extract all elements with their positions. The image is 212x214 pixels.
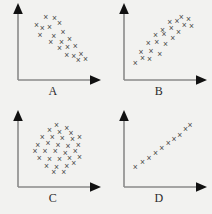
- data-point-marker: ×: [51, 167, 56, 177]
- data-point-marker: ×: [48, 37, 53, 47]
- panel-label-d: D: [106, 191, 212, 206]
- data-point-marker: ×: [166, 138, 171, 148]
- data-point-marker: ×: [160, 25, 165, 35]
- data-point-marker: ×: [163, 39, 168, 49]
- data-point-marker: ×: [138, 47, 143, 57]
- data-point-marker: ×: [61, 167, 66, 177]
- data-point-marker: ×: [50, 132, 55, 142]
- panel-label-a: A: [0, 84, 106, 99]
- y-axis-arrowhead-a: [13, 3, 23, 14]
- data-point-marker: ×: [170, 33, 175, 43]
- data-point-marker: ×: [172, 134, 177, 144]
- y-axis-arrowhead-d: [119, 110, 129, 121]
- data-point-marker: ×: [70, 134, 75, 144]
- data-points-a: ××××××××××××××××××××: [34, 12, 88, 66]
- data-points-c: ×××××××××××××××××××××××××××××××: [32, 120, 82, 178]
- scatter-panel-c: ××××××××××××××××××××××××××××××× C: [0, 107, 106, 214]
- data-point-marker: ×: [177, 130, 182, 140]
- data-point-marker: ×: [146, 38, 151, 48]
- scatter-panel-b: ××××××××××××××××××××× B: [106, 0, 212, 107]
- data-point-marker: ×: [157, 49, 162, 59]
- data-point-marker: ×: [71, 158, 76, 168]
- data-point-marker: ×: [176, 27, 181, 37]
- data-point-marker: ×: [179, 12, 184, 22]
- data-point-marker: ×: [187, 120, 192, 130]
- data-point-marker: ×: [37, 153, 42, 163]
- scatterplot-figure: ×××××××××××××××××××× A ×××××××××××××××××…: [0, 0, 212, 214]
- y-axis-arrowhead-c: [13, 110, 23, 121]
- data-point-marker: ×: [34, 20, 39, 30]
- data-point-marker: ×: [159, 143, 164, 153]
- data-point-marker: ×: [153, 148, 158, 158]
- scatter-panel-a: ×××××××××××××××××××× A: [0, 0, 106, 107]
- data-point-marker: ×: [189, 21, 194, 31]
- data-point-marker: ×: [40, 132, 45, 142]
- data-point-marker: ×: [167, 17, 172, 27]
- data-point-marker: ×: [57, 43, 62, 53]
- data-point-marker: ×: [38, 30, 43, 40]
- data-point-marker: ×: [73, 41, 78, 51]
- data-point-marker: ×: [140, 157, 145, 167]
- data-point-marker: ×: [43, 12, 48, 22]
- data-point-marker: ×: [77, 152, 82, 162]
- scatter-panel-d: ×××××××××× D: [106, 107, 212, 214]
- data-point-marker: ×: [44, 161, 49, 171]
- panel-label-b: B: [106, 84, 212, 99]
- data-points-d: ××××××××××: [133, 120, 193, 172]
- data-point-marker: ×: [83, 54, 88, 64]
- data-point-marker: ×: [133, 162, 138, 172]
- data-point-marker: ×: [146, 153, 151, 163]
- data-point-marker: ×: [64, 50, 69, 60]
- data-point-marker: ×: [153, 30, 158, 40]
- data-point-marker: ×: [133, 58, 138, 68]
- data-points-b: ×××××××××××××××××××××: [133, 12, 194, 68]
- panel-label-c: C: [0, 191, 106, 206]
- y-axis-arrowhead-b: [119, 3, 129, 14]
- data-point-marker: ×: [60, 133, 65, 143]
- data-point-marker: ×: [76, 55, 81, 65]
